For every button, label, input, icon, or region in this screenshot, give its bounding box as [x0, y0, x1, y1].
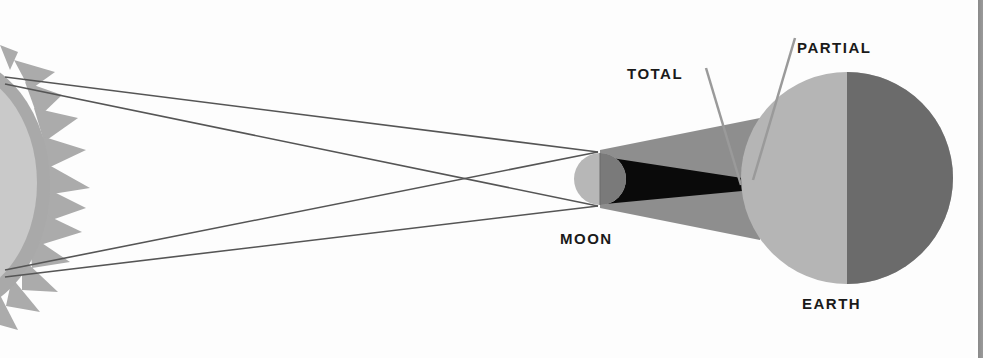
page-edge-divider: [975, 0, 983, 358]
moon-icon: [574, 153, 626, 205]
total-label: TOTAL: [627, 66, 683, 81]
partial-label: PARTIAL: [797, 40, 871, 55]
eclipse-diagram: TOTAL PARTIAL MOON EARTH: [0, 0, 983, 358]
sun-icon: [0, 45, 90, 330]
earth-icon: [741, 72, 953, 284]
light-rays: [5, 77, 598, 277]
moon-label: MOON: [560, 231, 613, 246]
earth-label: EARTH: [802, 296, 861, 311]
